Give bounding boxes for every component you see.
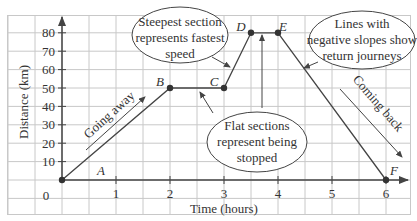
flat-line-3: stopped [237, 150, 278, 165]
x-tick-label: 4 [275, 186, 282, 201]
steepest-line-2: represents fastest [135, 30, 225, 45]
x-tick-label: 2 [167, 186, 174, 201]
negative-line-1: Lines with [334, 16, 390, 31]
point-label-f: F [389, 163, 399, 178]
point-label-e: E [278, 19, 287, 34]
negative-line-3: return journeys [322, 48, 401, 63]
flat-pointer-1 [200, 92, 213, 113]
data-point-b [167, 85, 173, 91]
flat-line-2: represent being [217, 134, 297, 149]
data-point-f [383, 177, 389, 183]
flat-line-1: Flat sections [224, 118, 289, 133]
steepest-line-3: speed [165, 46, 195, 61]
y-tick-label: 50 [42, 81, 55, 96]
origin-label: 0 [43, 188, 50, 203]
point-label-a: A [96, 163, 105, 178]
negative-pointer [304, 62, 318, 68]
point-label-d: D [235, 19, 246, 34]
x-axis-title: Time (hours) [190, 201, 258, 216]
steepest-pointer [212, 57, 230, 67]
x-tick-label: 6 [383, 186, 390, 201]
data-point-d [248, 30, 254, 36]
negative-line-2: negative slopes show [307, 32, 417, 47]
data-point-o [59, 177, 65, 183]
y-tick-label: 10 [42, 154, 55, 169]
x-tick-label: 1 [113, 186, 120, 201]
y-axis-title: Distance (km) [16, 65, 31, 139]
y-tick-label: 80 [42, 25, 55, 40]
y-tick-label: 40 [42, 99, 55, 114]
y-tick-label: 20 [42, 136, 55, 151]
y-tick-label: 60 [42, 62, 55, 77]
y-tick-label: 70 [42, 44, 55, 59]
steepest-line-1: Steepest section [138, 14, 222, 29]
distance-time-chart: 1020304050607080 123456 0 Distance (km) … [0, 0, 417, 221]
point-label-b: B [156, 74, 164, 89]
data-point-c [221, 85, 227, 91]
point-label-c: C [210, 74, 219, 89]
x-tick-label: 3 [221, 186, 228, 201]
y-tick-label: 30 [42, 117, 55, 132]
x-tick-label: 5 [329, 186, 336, 201]
